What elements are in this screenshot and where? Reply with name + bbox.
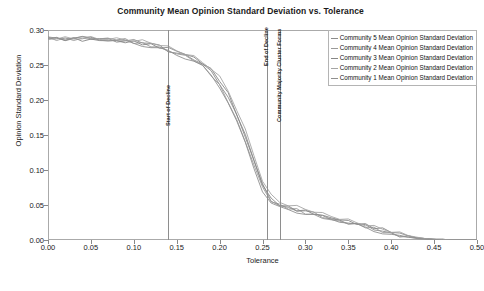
legend-item[interactable]: Community 3 Mean Opinion Standard Deviat… [331, 53, 473, 63]
x-tick-mark [177, 240, 178, 244]
x-tick-mark [91, 240, 92, 244]
x-tick-label: 0.25 [255, 243, 270, 252]
x-tick-mark [263, 240, 264, 244]
legend-item[interactable]: Community 2 Mean Opinion Standard Deviat… [331, 63, 473, 73]
legend-item[interactable]: Community 5 Mean Opinion Standard Deviat… [331, 33, 473, 43]
x-tick-mark [434, 240, 435, 244]
y-tick-label: 0.30 [29, 26, 44, 35]
annotation-label: Community Majority Cluster Forms [276, 29, 282, 122]
x-tick-label: 0.20 [212, 243, 227, 252]
x-tick-label: 0.45 [427, 243, 442, 252]
legend-line-swatch [331, 38, 338, 39]
x-tick-label: 0.10 [126, 243, 141, 252]
x-tick-label: 0.40 [384, 243, 399, 252]
legend-label: Community 2 Mean Opinion Standard Deviat… [340, 63, 473, 73]
legend-label: Community 1 Mean Opinion Standard Deviat… [340, 73, 473, 83]
x-tick-mark [220, 240, 221, 244]
chart-legend: Community 5 Mean Opinion Standard Deviat… [328, 30, 477, 86]
y-tick-label: 0.15 [29, 131, 44, 140]
annotation-label: Start of Decline [165, 85, 171, 126]
chart-title: Community Mean Opinion Standard Deviatio… [0, 6, 481, 16]
x-axis-label: Tolerance [48, 256, 477, 265]
legend-label: Community 3 Mean Opinion Standard Deviat… [340, 53, 473, 63]
x-tick-mark [305, 240, 306, 244]
x-tick-mark [348, 240, 349, 244]
legend-line-swatch [331, 58, 338, 59]
legend-line-swatch [331, 78, 338, 79]
legend-line-swatch [331, 68, 338, 69]
y-tick-label: 0.25 [29, 61, 44, 70]
legend-label: Community 4 Mean Opinion Standard Deviat… [340, 43, 473, 53]
y-tick-label: 0.05 [29, 201, 44, 210]
x-tick-mark [477, 240, 478, 244]
legend-item[interactable]: Community 1 Mean Opinion Standard Deviat… [331, 73, 473, 83]
y-axis-ticks: 0.000.050.100.150.200.250.30 [0, 30, 44, 240]
annotation-label: End of Decline [263, 27, 269, 66]
x-tick-label: 0.00 [41, 243, 56, 252]
legend-label: Community 5 Mean Opinion Standard Deviat… [340, 33, 473, 43]
y-tick-label: 0.20 [29, 96, 44, 105]
legend-item[interactable]: Community 4 Mean Opinion Standard Deviat… [331, 43, 473, 53]
x-tick-label: 0.05 [84, 243, 99, 252]
x-tick-label: 0.30 [298, 243, 313, 252]
y-tick-label: 0.10 [29, 166, 44, 175]
x-tick-mark [48, 240, 49, 244]
legend-line-swatch [331, 48, 338, 49]
x-tick-label: 0.50 [470, 243, 484, 252]
annotation-line [168, 30, 169, 240]
x-tick-mark [134, 240, 135, 244]
x-tick-label: 0.15 [169, 243, 184, 252]
x-tick-mark [391, 240, 392, 244]
x-tick-label: 0.35 [341, 243, 356, 252]
